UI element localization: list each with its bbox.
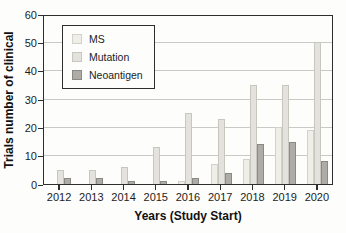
x-tick-mark-2018 bbox=[252, 185, 253, 190]
bar-group-2017 bbox=[205, 16, 237, 184]
bar-mutation-2013 bbox=[89, 170, 96, 184]
y-tick-mark-0 bbox=[38, 185, 43, 186]
x-tick-label-2015: 2015 bbox=[140, 191, 172, 203]
bar-neoantigen-2012 bbox=[64, 178, 71, 184]
x-tick-mark-2014 bbox=[123, 185, 124, 190]
bar-mutation-2018 bbox=[250, 85, 257, 184]
y-tick-label-10: 10 bbox=[11, 151, 37, 162]
legend-item-ms: MS bbox=[72, 33, 143, 45]
x-tick-mark-2015 bbox=[155, 185, 156, 190]
x-tick-label-2012: 2012 bbox=[43, 191, 75, 203]
x-tick-label-2017: 2017 bbox=[204, 191, 236, 203]
bar-ms-2018 bbox=[243, 159, 250, 185]
bar-group-2018 bbox=[237, 16, 269, 184]
bar-group-2020 bbox=[302, 16, 334, 184]
bar-chart-figure: Trials number of clinical MS Mutation Ne… bbox=[0, 0, 346, 233]
x-tick-label-2013: 2013 bbox=[75, 191, 107, 203]
x-tick-label-2020: 2020 bbox=[301, 191, 333, 203]
bar-mutation-2019 bbox=[282, 85, 289, 184]
x-tick-label-2016: 2016 bbox=[172, 191, 204, 203]
x-tick-label-2018: 2018 bbox=[236, 191, 268, 203]
legend-item-mutation: Mutation bbox=[72, 51, 143, 63]
bar-group-2019 bbox=[270, 16, 302, 184]
bar-ms-2020 bbox=[307, 130, 314, 184]
bar-neoantigen-2018 bbox=[257, 144, 264, 184]
bar-group-2016 bbox=[173, 16, 205, 184]
bar-ms-2017 bbox=[211, 164, 218, 184]
bar-mutation-2012 bbox=[57, 170, 64, 184]
x-tick-mark-2019 bbox=[284, 185, 285, 190]
y-tick-label-50: 50 bbox=[11, 38, 37, 49]
y-tick-mark-50 bbox=[38, 43, 43, 44]
legend-swatch-neoantigen bbox=[72, 70, 82, 80]
legend-label-ms: MS bbox=[89, 33, 105, 45]
bar-neoantigen-2020 bbox=[321, 161, 328, 184]
x-tick-mark-2020 bbox=[316, 185, 317, 190]
bar-neoantigen-2016 bbox=[192, 178, 199, 184]
bar-neoantigen-2014 bbox=[128, 181, 135, 184]
legend-swatch-ms bbox=[72, 34, 82, 44]
bar-mutation-2014 bbox=[121, 167, 128, 184]
y-tick-label-30: 30 bbox=[11, 95, 37, 106]
x-tick-label-2014: 2014 bbox=[107, 191, 139, 203]
y-tick-label-40: 40 bbox=[11, 66, 37, 77]
bar-neoantigen-2019 bbox=[289, 142, 296, 185]
x-axis-title: Years (Study Start) bbox=[134, 209, 241, 223]
bar-neoantigen-2015 bbox=[160, 181, 167, 184]
plot-area: MS Mutation Neoantigen bbox=[43, 15, 333, 185]
bar-ms-2019 bbox=[275, 127, 282, 184]
x-tick-label-2019: 2019 bbox=[269, 191, 301, 203]
bar-mutation-2015 bbox=[153, 147, 160, 184]
legend-item-neoantigen: Neoantigen bbox=[72, 69, 143, 81]
bar-mutation-2017 bbox=[218, 119, 225, 184]
bar-mutation-2020 bbox=[314, 42, 321, 184]
legend-label-mutation: Mutation bbox=[89, 51, 129, 63]
y-tick-mark-30 bbox=[38, 100, 43, 101]
x-tick-mark-2016 bbox=[187, 185, 188, 190]
y-tick-mark-60 bbox=[38, 15, 43, 16]
y-tick-mark-20 bbox=[38, 128, 43, 129]
legend-swatch-mutation bbox=[72, 52, 82, 62]
y-tick-label-60: 60 bbox=[11, 10, 37, 21]
x-tick-mark-2017 bbox=[220, 185, 221, 190]
y-tick-label-20: 20 bbox=[11, 123, 37, 134]
y-tick-mark-40 bbox=[38, 71, 43, 72]
x-tick-mark-2013 bbox=[91, 185, 92, 190]
bar-ms-2016 bbox=[178, 181, 185, 184]
bar-neoantigen-2017 bbox=[225, 173, 232, 184]
bar-mutation-2016 bbox=[185, 113, 192, 184]
y-tick-label-0: 0 bbox=[11, 180, 37, 191]
legend: MS Mutation Neoantigen bbox=[62, 25, 155, 89]
legend-label-neoantigen: Neoantigen bbox=[89, 69, 143, 81]
x-tick-mark-2012 bbox=[58, 185, 59, 190]
y-tick-mark-10 bbox=[38, 156, 43, 157]
bar-neoantigen-2013 bbox=[96, 178, 103, 184]
